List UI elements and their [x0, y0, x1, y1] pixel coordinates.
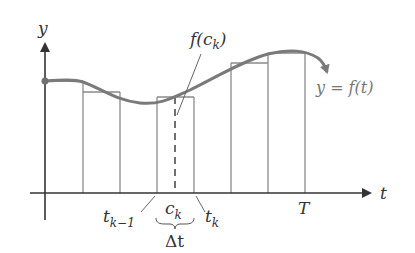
- T-label: T: [298, 198, 311, 218]
- t-k-minus-1-label: tk−1: [103, 206, 135, 230]
- t-k-label: tk: [205, 206, 219, 230]
- diagram-svg: y t f(ck) y = f(t) tk−1 ck tk T Δt: [0, 0, 415, 253]
- curve-f-of-t: [45, 51, 327, 103]
- y-axis-label: y: [37, 18, 48, 38]
- t-k-minus-1-leader: [141, 196, 155, 212]
- f-ck-leader-line: [177, 54, 201, 115]
- t-axis-label: t: [380, 183, 387, 203]
- t-k-leader: [196, 196, 205, 212]
- curve-start-dot: [42, 78, 49, 85]
- f-ck-label: f(ck): [188, 29, 226, 52]
- curve-label: y = f(t): [315, 78, 373, 97]
- riemann-sum-diagram: y t f(ck) y = f(t) tk−1 ck tk T Δt: [0, 0, 415, 253]
- delta-t-label: Δt: [165, 231, 184, 251]
- c-k-label: ck: [165, 198, 182, 222]
